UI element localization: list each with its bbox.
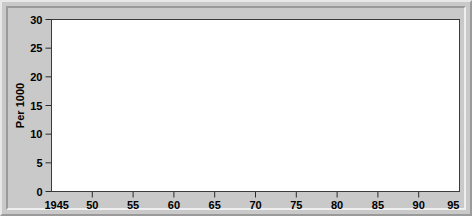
y-axis: 051015202530: [30, 14, 51, 198]
x-tick-label: 95: [447, 199, 459, 211]
chart-figure: 051015202530 194550556065707580859095 Ca…: [0, 0, 472, 216]
y-tick-label: 25: [30, 42, 42, 54]
x-tick-label: 75: [290, 199, 302, 211]
x-tick-label: 50: [86, 199, 98, 211]
x-tick-label: 80: [331, 199, 343, 211]
x-tick-label: 65: [209, 199, 221, 211]
x-tick-label: 55: [127, 199, 139, 211]
y-tick-label: 20: [30, 71, 42, 83]
y-tick-label: 30: [30, 14, 42, 26]
x-tick-label: 1945: [45, 199, 69, 211]
y-axis-title: Per 1000: [14, 83, 26, 128]
x-tick-label: 60: [168, 199, 180, 211]
y-tick-label: 5: [36, 157, 42, 169]
x-tick-label: 70: [249, 199, 261, 211]
x-tick-label: 90: [413, 199, 425, 211]
y-tick-label: 15: [30, 100, 42, 112]
y-tick-label: 0: [36, 186, 42, 198]
x-tick-label: 85: [372, 199, 384, 211]
y-tick-label: 10: [30, 128, 42, 140]
x-axis: 194550556065707580859095: [45, 192, 460, 211]
plot-area: [51, 19, 460, 192]
